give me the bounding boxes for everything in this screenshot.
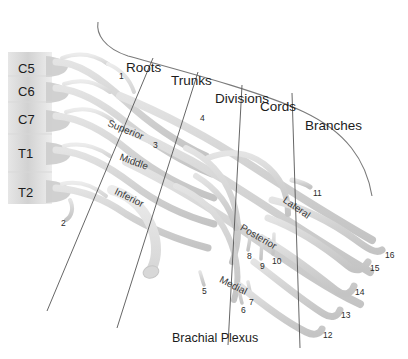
- marker-8: 8: [247, 252, 252, 261]
- marker-1: 1: [119, 72, 124, 81]
- brachial-plexus-figure: C5 C6 C7 T1 T2 Roots Trunks Divisions Co…: [0, 0, 408, 359]
- section-label-cords: Cords: [260, 100, 296, 114]
- marker-14: 14: [355, 288, 364, 297]
- vertebra-label-c7: C7: [18, 113, 35, 126]
- marker-15: 15: [370, 264, 379, 273]
- vertebra-label-c6: C6: [18, 85, 35, 98]
- vertebra-label-t2: T2: [18, 186, 33, 199]
- marker-13: 13: [341, 311, 350, 320]
- section-label-branches: Branches: [305, 119, 362, 133]
- vertebra-label-t1: T1: [18, 147, 33, 160]
- vertebra-label-c5: C5: [18, 62, 35, 75]
- brachial-plexus-illustration: [0, 0, 408, 359]
- marker-16: 16: [385, 251, 394, 260]
- marker-7: 7: [249, 298, 254, 307]
- marker-12: 12: [323, 331, 332, 340]
- marker-2: 2: [61, 219, 66, 228]
- marker-5: 5: [202, 287, 207, 296]
- marker-11: 11: [313, 189, 322, 198]
- marker-10: 10: [272, 257, 281, 266]
- section-label-trunks: Trunks: [171, 74, 212, 88]
- section-label-roots: Roots: [126, 61, 161, 75]
- marker-6: 6: [241, 306, 246, 315]
- marker-9: 9: [260, 262, 265, 271]
- marker-4: 4: [200, 114, 205, 123]
- marker-3: 3: [153, 141, 158, 150]
- figure-caption: Brachial Plexus: [172, 332, 258, 345]
